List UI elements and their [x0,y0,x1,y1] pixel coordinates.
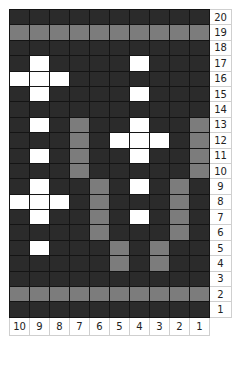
row-number-label: 9 [210,179,232,194]
stitch-cell [70,117,90,132]
stitch-cell [90,40,110,55]
stitch-cell [10,133,30,148]
stitch-cell [110,10,130,25]
stitch-cell [170,179,190,194]
row-number-label: 5 [210,240,232,255]
stitch-cell [10,163,30,178]
chart-row: 20 [10,10,232,25]
stitch-cell [110,56,130,71]
stitch-cell [110,225,130,240]
stitch-cell [110,271,130,286]
row-number-label: 16 [210,71,232,86]
stitch-cell [130,10,150,25]
chart-row: 16 [10,71,232,86]
chart-row: 4 [10,256,232,271]
stitch-cell [170,86,190,101]
stitch-cell [150,25,170,40]
column-number-label: 8 [50,317,70,335]
stitch-cell [170,117,190,132]
stitch-cell [70,133,90,148]
stitch-cell [150,240,170,255]
stitch-cell [10,210,30,225]
stitch-cell [170,194,190,209]
stitch-cell [10,102,30,117]
column-number-label: 6 [90,317,110,335]
stitch-cell [110,117,130,132]
stitch-cell [10,25,30,40]
stitch-cell [130,25,150,40]
stitch-cell [130,256,150,271]
row-number-label: 19 [210,25,232,40]
stitch-cell [30,10,50,25]
stitch-cell [190,194,210,209]
chart-row: 13 [10,117,232,132]
stitch-cell [10,86,30,101]
stitch-cell [50,56,70,71]
stitch-cell [30,40,50,55]
stitch-cell [30,287,50,302]
row-number-label: 3 [210,271,232,286]
stitch-cell [130,225,150,240]
stitch-cell [110,256,130,271]
stitch-cell [170,133,190,148]
row-number-label: 4 [210,256,232,271]
stitch-cell [170,102,190,117]
stitch-cell [10,302,30,317]
chart-row: 7 [10,210,232,225]
stitch-cell [190,25,210,40]
stitch-cell [90,163,110,178]
stitch-cell [130,40,150,55]
stitch-cell [150,225,170,240]
stitch-cell [130,287,150,302]
stitch-cell [90,10,110,25]
stitch-cell [150,117,170,132]
stitch-cell [190,163,210,178]
chart-row: 12 [10,133,232,148]
stitch-cell [10,256,30,271]
stitch-cell [150,194,170,209]
stitch-cell [150,271,170,286]
stitch-cell [150,179,170,194]
stitch-cell [90,86,110,101]
stitch-cell [190,40,210,55]
stitch-cell [70,302,90,317]
stitch-cell [30,148,50,163]
stitch-cell [90,271,110,286]
stitch-cell [30,56,50,71]
stitch-cell [190,117,210,132]
stitch-cell [90,71,110,86]
stitch-cell [50,86,70,101]
stitch-cell [50,240,70,255]
chart-row: 19 [10,25,232,40]
stitch-cell [190,10,210,25]
stitch-cell [70,86,90,101]
stitch-cell [150,86,170,101]
stitch-cell [90,194,110,209]
stitch-cell [70,179,90,194]
stitch-cell [110,133,130,148]
stitch-cell [10,194,30,209]
stitch-cell [130,302,150,317]
stitch-cell [70,163,90,178]
stitch-cell [90,240,110,255]
stitch-cell [10,179,30,194]
stitch-cell [70,225,90,240]
stitch-cell [30,179,50,194]
column-number-label: 2 [170,317,190,335]
stitch-cell [10,40,30,55]
row-number-label: 12 [210,133,232,148]
stitch-cell [30,210,50,225]
column-number-label: 4 [130,317,150,335]
stitch-cell [110,163,130,178]
stitch-cell [50,287,70,302]
stitch-cell [90,179,110,194]
stitch-cell [70,240,90,255]
stitch-cell [130,56,150,71]
stitch-cell [190,240,210,255]
row-number-label: 18 [210,40,232,55]
knitting-chart: 2019181716151413121110987654321109876543… [9,9,232,336]
stitch-cell [130,117,150,132]
chart-row: 6 [10,225,232,240]
stitch-cell [70,256,90,271]
column-number-label: 10 [10,317,30,335]
